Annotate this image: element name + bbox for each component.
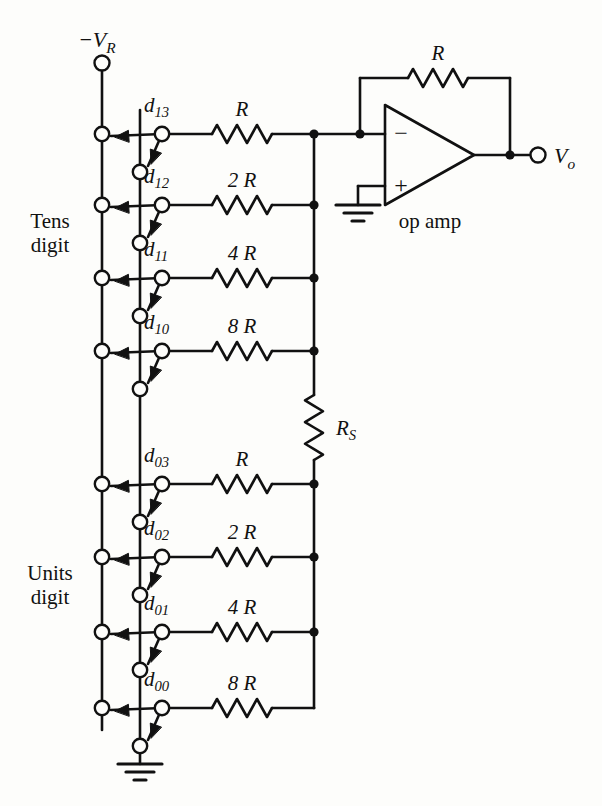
bus-junction-01 — [309, 627, 318, 636]
op-amp-inverting-sign: − — [394, 120, 408, 146]
switch-pole-13[interactable] — [155, 127, 169, 141]
dac-circuit-diagram: −VRd13Rd122 Rd114 Rd108 Rd03Rd022 Rd014 … — [0, 0, 602, 806]
switch-label-01: d01 — [144, 591, 169, 618]
switch-arrow-to-ground — [150, 572, 161, 587]
reference-voltage-terminal[interactable] — [95, 56, 110, 71]
resistor-8R-10 — [212, 342, 272, 360]
contact-reference-11[interactable] — [95, 271, 109, 285]
bus-junction-11 — [309, 273, 318, 282]
feedback-resistor-label: R — [431, 41, 445, 65]
bus-junction-10 — [309, 346, 318, 355]
switch-arrow-to-reference — [115, 704, 129, 716]
summing-junction-dot — [355, 129, 364, 138]
output-junction-dot — [505, 150, 514, 159]
switch-arrow-to-reference — [115, 201, 129, 213]
switch-pole-11[interactable] — [155, 271, 169, 285]
scaling-resistor-label: RS — [335, 416, 357, 443]
resistor-label-02: 2 R — [228, 520, 257, 544]
resistor-label-13: R — [235, 97, 249, 121]
ground-symbol-opamp — [336, 205, 380, 221]
output-terminal[interactable] — [531, 148, 546, 163]
switch-arrow-to-ground — [150, 499, 161, 514]
bus-junction-13 — [309, 129, 318, 138]
switch-arrow-to-reference — [115, 553, 129, 565]
op-amp-caption: op amp — [399, 209, 461, 233]
resistor-4R-01 — [212, 623, 272, 641]
switch-arrow-to-reference — [115, 274, 129, 286]
resistor-2R-12 — [212, 196, 272, 214]
contact-ground-10[interactable] — [133, 382, 147, 396]
switch-pole-12[interactable] — [155, 198, 169, 212]
contact-reference-03[interactable] — [95, 477, 109, 491]
switch-arrow-to-ground — [150, 647, 161, 662]
bus-junction-12 — [309, 200, 318, 209]
switch-label-00: d00 — [144, 667, 170, 694]
switch-arrow-to-ground — [150, 149, 161, 164]
resistor-2R-02 — [212, 548, 272, 566]
switch-pole-02[interactable] — [155, 550, 169, 564]
switch-label-10: d10 — [144, 310, 170, 337]
switch-pole-00[interactable] — [155, 701, 169, 715]
switch-arrow-to-ground — [150, 293, 161, 308]
resistor-label-00: 8 R — [228, 671, 257, 695]
scaling-resistor-Rs — [305, 395, 323, 460]
resistor-8R-00 — [212, 699, 272, 717]
group-label-units-line2: digit — [31, 585, 70, 609]
switch-label-13: d13 — [144, 93, 169, 120]
switch-label-12: d12 — [144, 164, 170, 191]
switch-pole-10[interactable] — [155, 344, 169, 358]
resistor-label-11: 4 R — [228, 241, 257, 265]
reference-voltage-label: −VR — [78, 27, 116, 56]
switch-pole-01[interactable] — [155, 625, 169, 639]
switch-label-03: d03 — [144, 443, 169, 470]
contact-reference-00[interactable] — [95, 701, 109, 715]
switch-label-02: d02 — [144, 516, 170, 543]
switch-arrow-to-reference — [115, 480, 129, 492]
switch-arrow-to-reference — [115, 628, 129, 640]
contact-reference-01[interactable] — [95, 625, 109, 639]
switch-label-11: d11 — [144, 237, 168, 264]
op-amp-noninverting-sign: + — [394, 172, 408, 198]
group-label-units-line1: Units — [27, 561, 73, 585]
contact-reference-10[interactable] — [95, 344, 109, 358]
switch-pole-03[interactable] — [155, 477, 169, 491]
switch-arrow-to-ground — [150, 366, 161, 381]
group-label-tens-line1: Tens — [30, 209, 69, 233]
ground-symbol-rail — [118, 764, 162, 780]
switch-arrow-to-reference — [115, 347, 129, 359]
resistor-R-13 — [212, 125, 272, 143]
switch-arrow-to-reference — [115, 130, 129, 142]
resistor-label-01: 4 R — [228, 595, 257, 619]
feedback-resistor-R — [408, 69, 468, 87]
contact-reference-12[interactable] — [95, 198, 109, 212]
contact-reference-13[interactable] — [95, 127, 109, 141]
resistor-label-03: R — [235, 447, 249, 471]
bus-junction-03 — [309, 479, 318, 488]
contact-ground-00[interactable] — [133, 739, 147, 753]
switch-arrow-to-ground — [150, 220, 161, 235]
bus-junction-02 — [309, 552, 318, 561]
contact-reference-02[interactable] — [95, 550, 109, 564]
group-label-tens-line2: digit — [31, 233, 70, 257]
resistor-label-12: 2 R — [228, 168, 257, 192]
resistor-label-10: 8 R — [228, 314, 257, 338]
resistor-4R-11 — [212, 269, 272, 287]
resistor-R-03 — [212, 475, 272, 493]
output-voltage-label: Vo — [554, 143, 575, 172]
switch-arrow-to-ground — [150, 723, 161, 738]
